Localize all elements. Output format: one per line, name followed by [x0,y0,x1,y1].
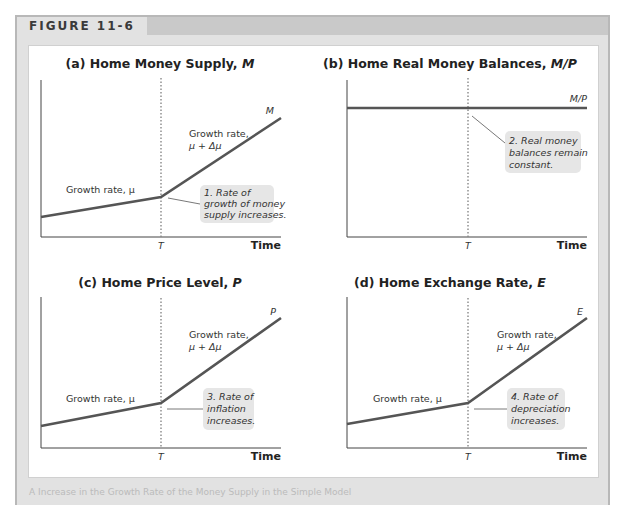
x-axis-label: Time [251,239,281,252]
growth-after-label: Growth rate, [189,128,249,139]
callout-line: increases. [207,415,255,426]
callout-line: 4. Rate of [511,391,559,402]
t-tick-label: T [465,451,472,462]
callout-line: depreciation [511,403,571,414]
curve-label: M/P [570,93,587,104]
callout-line: growth of money [204,198,285,209]
curve-label: P [270,306,276,317]
growth-after-formula: μ + Δμ [496,341,530,352]
callout-line: balances remain [509,147,588,158]
curve-label: M [266,105,274,116]
t-tick-label: T [465,240,472,251]
panel-a-title: (a) Home Money Supply, M [66,56,255,71]
callout-line: 3. Rate of [207,391,255,402]
panel-b: (b) Home Real Money Balances, M/P M/P 2.… [323,56,588,252]
callout-leader [168,198,200,204]
x-axis-label: Time [251,450,281,463]
callout-line: supply increases. [204,209,287,220]
growth-before-label: Growth rate, μ [66,393,135,404]
callout-line: constant. [509,159,553,170]
panel-d-title: (d) Home Exchange Rate, E [354,275,546,290]
panel-a: (a) Home Money Supply, M M Growth rate, … [41,56,287,252]
callout-line: 1. Rate of [204,187,252,198]
panel-b-title: (b) Home Real Money Balances, M/P [323,56,577,71]
growth-after-label: Growth rate, [189,329,249,340]
growth-after-formula: μ + Δμ [188,140,222,151]
x-axis-label: Time [557,450,587,463]
growth-after-label: Growth rate, [497,329,557,340]
growth-after-formula: μ + Δμ [188,341,222,352]
t-tick-label: T [158,240,165,251]
t-tick-label: T [158,451,165,462]
callout-line: increases. [511,415,559,426]
panel-d: (d) Home Exchange Rate, E E Growth rate,… [347,275,587,463]
growth-before-label: Growth rate, μ [66,184,135,195]
callout-line: inflation [207,403,246,414]
callout-line: 2. Real money [509,135,578,146]
growth-before-label: Growth rate, μ [373,393,442,404]
callout-leader [472,116,505,143]
curve-label: E [577,306,583,317]
x-axis-label: Time [557,239,587,252]
panel-c-title: (c) Home Price Level, P [78,275,242,290]
panel-c: (c) Home Price Level, P P Growth rate, μ… [41,275,281,463]
